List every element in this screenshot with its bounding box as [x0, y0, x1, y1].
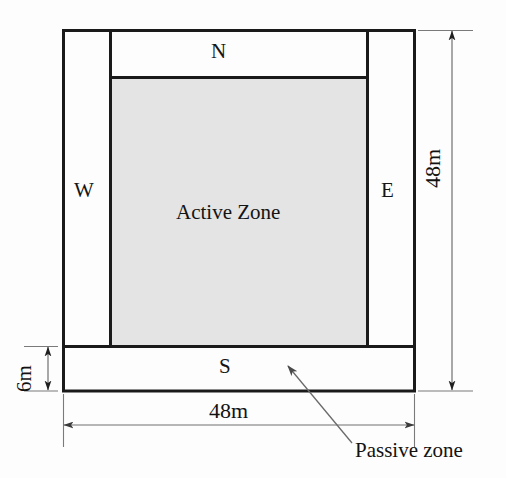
passive-zone-leader-line: [288, 366, 352, 443]
dimension-label-height: 48m: [420, 149, 446, 188]
zone-label-north: N: [211, 39, 226, 64]
active-zone-label: Active Zone: [176, 200, 280, 225]
zone-label-south: S: [219, 354, 231, 379]
dimension-label-strip-depth: 6m: [12, 365, 37, 392]
zone-label-east: E: [381, 178, 394, 203]
dimension-label-width: 48m: [209, 398, 248, 424]
diagram-canvas: N W E S Active Zone 48m 6m 48m Passive z…: [0, 0, 506, 478]
zone-label-west: W: [74, 178, 94, 203]
plan-view-diagram: [0, 0, 506, 478]
passive-zone-callout-label: Passive zone: [355, 438, 463, 463]
